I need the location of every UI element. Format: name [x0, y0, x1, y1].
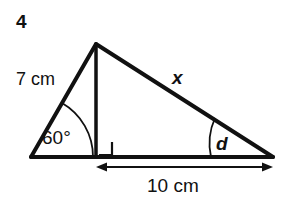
right-angle-marker	[99, 142, 112, 155]
label-left-angle: 60°	[42, 128, 71, 147]
triangle-right-side	[96, 44, 273, 157]
label-left-side-length: 7 cm	[16, 70, 55, 88]
label-right-side-length: x	[172, 68, 183, 87]
label-right-angle: d	[216, 134, 228, 153]
figure-canvas: 4 7 cm 60° x d 10 cm	[0, 0, 293, 215]
question-number: 4	[16, 12, 27, 31]
dimension-arrowhead-right	[262, 163, 273, 172]
angle-arc-d	[210, 118, 215, 157]
dimension-arrowhead-left	[96, 163, 107, 172]
label-base-length: 10 cm	[147, 176, 199, 195]
